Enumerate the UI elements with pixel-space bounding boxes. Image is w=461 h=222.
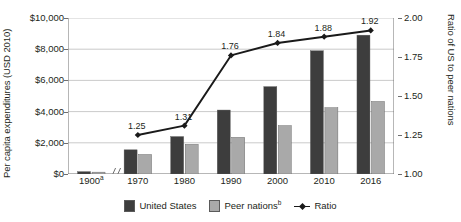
y-axis-right-tick-label: 1.75 — [404, 52, 423, 62]
bar — [264, 87, 277, 174]
x-axis-tick-label: 2000 — [267, 176, 288, 186]
bar — [78, 172, 91, 174]
x-axis-ticks: 1900a197019801990200020102016 — [68, 176, 394, 192]
x-axis-tick-label: 1970 — [127, 176, 148, 186]
legend-swatch-icon — [209, 200, 220, 212]
legend-label: Ratio — [314, 201, 336, 211]
axis-break-mark — [111, 168, 116, 174]
bar — [139, 155, 152, 175]
y-axis-right-tick-label: 2.00 — [404, 13, 423, 23]
y-axis-right-tick-mark — [398, 96, 402, 97]
legend-item: Ratio — [294, 201, 336, 211]
plot-area: 1.251.311.761.841.881.92 — [68, 18, 394, 174]
y-axis-left-tick-label: $2,000 — [35, 138, 64, 148]
y-axis-left-tick-label: $8,000 — [35, 44, 64, 54]
y-axis-left-tick-mark — [64, 174, 68, 175]
x-axis-tick-label: 1980 — [174, 176, 195, 186]
ratio-value-label: 1.31 — [175, 112, 193, 122]
ratio-point-marker — [274, 40, 280, 46]
bar — [310, 51, 323, 174]
ratio-value-label: 1.76 — [221, 41, 239, 51]
y-axis-left-tick-label: $10,000 — [30, 13, 64, 23]
legend-label: United States — [139, 201, 196, 211]
y-axis-right-tick-mark — [398, 135, 402, 136]
bar — [325, 108, 338, 174]
chart-legend: United StatesPeer nationsbRatio — [0, 196, 461, 216]
x-axis-tick-label: 1900a — [79, 176, 104, 186]
bar — [217, 110, 230, 174]
legend-swatch-icon — [124, 200, 135, 212]
y-axis-left-tick-label: $4,000 — [35, 107, 64, 117]
ratio-value-label: 1.92 — [361, 18, 379, 26]
bar — [371, 101, 384, 174]
legend-item: Peer nationsb — [209, 200, 281, 212]
bar — [232, 137, 245, 174]
ratio-point-marker — [135, 132, 141, 138]
plot-svg: 1.251.311.761.841.881.92 — [68, 18, 394, 174]
y-axis-right-tick-mark — [398, 18, 402, 19]
chart-container: Per capita expenditures (USD 2010) Ratio… — [0, 0, 461, 222]
y-axis-right-tick-label: 1.25 — [404, 130, 423, 140]
bar — [171, 137, 184, 174]
y-axis-left-ticks: $0$2,000$4,000$6,000$8,000$10,000 — [16, 0, 64, 222]
ratio-value-label: 1.88 — [314, 23, 332, 33]
bar — [278, 126, 291, 174]
ratio-value-label: 1.25 — [128, 121, 146, 131]
y-axis-right-tick-label: 1.00 — [404, 169, 423, 179]
y-axis-right-tick-mark — [398, 57, 402, 58]
bar — [124, 150, 137, 174]
ratio-point-marker — [321, 34, 327, 40]
y-axis-left-tick-label: $6,000 — [35, 75, 64, 85]
y-axis-right-ticks: 1.001.251.501.752.00 — [398, 0, 444, 222]
footnote-marker: a — [100, 174, 104, 181]
bar — [185, 144, 198, 174]
axis-break-mark — [116, 168, 121, 174]
y-axis-right-tick-mark — [398, 174, 402, 175]
legend-item: United States — [124, 200, 196, 212]
y-axis-right-tick-label: 1.50 — [404, 91, 423, 101]
legend-line-icon — [294, 201, 310, 211]
footnote-marker: b — [278, 199, 282, 206]
x-axis-tick-label: 1990 — [220, 176, 241, 186]
y-axis-left-tick-label: $0 — [53, 169, 64, 179]
legend-label: Peer nationsb — [224, 201, 281, 211]
ratio-value-label: 1.84 — [268, 29, 286, 39]
x-axis-tick-label: 2010 — [314, 176, 335, 186]
ratio-point-marker — [368, 27, 374, 33]
bar — [357, 35, 370, 174]
x-axis-tick-label: 2016 — [360, 176, 381, 186]
